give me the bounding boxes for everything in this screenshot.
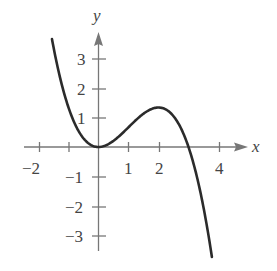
y-tick-label: 1	[77, 109, 86, 128]
y-tick-label: −2	[65, 198, 83, 217]
y-tick-label: −3	[65, 227, 83, 246]
function-curve	[52, 39, 212, 257]
x-tick-label: 1	[124, 159, 133, 178]
x-tick-label: 4	[215, 159, 224, 178]
x-axis-arrow-icon	[234, 143, 248, 152]
y-tick-label: 3	[77, 50, 86, 69]
x-axis-label: x	[251, 137, 260, 156]
x-tick-label: −2	[22, 159, 40, 178]
y-axis-arrow-icon	[94, 32, 103, 46]
y-tick-label: −1	[65, 168, 83, 187]
y-axis-label: y	[91, 6, 101, 25]
x-tick-label: 2	[155, 159, 164, 178]
y-tick-label: 2	[77, 80, 86, 99]
function-graph: −2 1 2 4 3 2 1 −1 −2 −3 x y	[0, 0, 277, 271]
